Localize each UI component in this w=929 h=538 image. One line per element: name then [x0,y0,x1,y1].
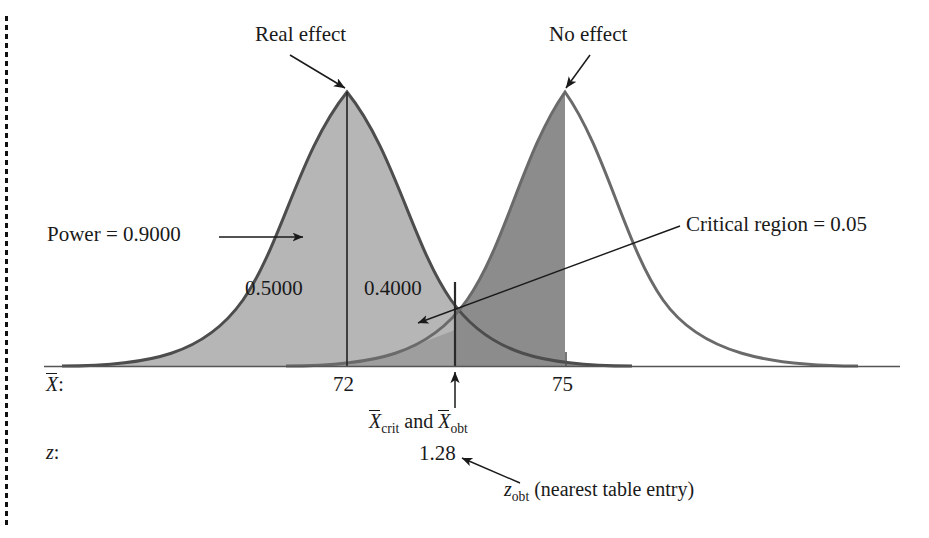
label-z-value: 1.28 [419,443,456,464]
axis-label-z: z: [46,442,59,462]
label-power: Power = 0.9000 [47,224,181,245]
label-and: and [404,410,433,432]
xobt-subscript: obt [450,421,467,436]
axis-label-z-glyph: z [46,441,54,463]
zobt-subscript: obt [512,489,529,504]
label-critical-region: Critical region = 0.05 [686,214,867,235]
axis-label-z-colon: : [54,441,60,463]
axis-label-xbar-colon: : [58,373,64,395]
axis-label-xbar: X: [46,374,64,394]
zobt-note-text: (nearest table entry) [534,478,694,500]
xobt-glyph: X [438,410,450,432]
tick-label-75: 75 [552,374,573,395]
label-real-effect: Real effect [255,24,346,45]
arrow-real-effect [290,55,345,88]
label-xcrit-and-xobt: Xcrit and Xobt [369,411,468,436]
distribution-plot [0,0,929,538]
label-area-right: 0.4000 [364,278,422,299]
tick-label-72: 72 [333,374,354,395]
label-zobt-note: zobt (nearest table entry) [504,479,694,504]
xcrit-subscript: crit [381,421,399,436]
label-no-effect: No effect [549,24,627,45]
label-area-left: 0.5000 [245,278,303,299]
xcrit-glyph: X [369,410,381,432]
arrow-no-effect [566,55,590,88]
zobt-glyph: z [504,478,512,500]
axis-label-xbar-glyph: X [46,373,58,395]
figure-canvas: Real effect No effect Power = 0.9000 Cri… [0,0,929,538]
